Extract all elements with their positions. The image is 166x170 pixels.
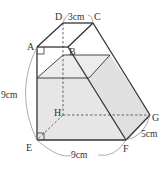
dim-EF: 9cm xyxy=(71,150,88,160)
dim-FG: 5cm xyxy=(141,129,158,139)
label-B: B xyxy=(69,46,76,57)
label-E: E xyxy=(26,142,32,153)
water-region xyxy=(37,55,150,140)
label-C: C xyxy=(94,11,101,22)
label-G: G xyxy=(152,112,159,123)
dim-AE: 9cm xyxy=(1,90,18,100)
diagram-container: D C A B H G E F 3cm 9cm 9cm 5cm xyxy=(0,0,166,170)
dim-DC: 3cm xyxy=(68,12,85,22)
label-D: D xyxy=(55,11,62,22)
label-F: F xyxy=(123,143,129,154)
label-H: H xyxy=(54,107,61,118)
label-A: A xyxy=(27,41,35,52)
